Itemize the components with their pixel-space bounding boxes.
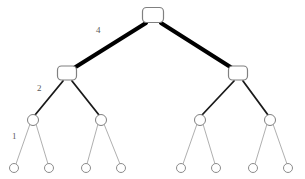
- tree-node: [96, 115, 107, 126]
- edge-weight-label: 1: [12, 132, 17, 141]
- tree-node: [58, 66, 77, 80]
- tree-edge: [255, 124, 267, 164]
- tree-edge: [36, 124, 48, 164]
- edge-weight-label: 4: [96, 26, 101, 35]
- tree-edge: [87, 124, 98, 164]
- tree-diagram-figure: 421: [0, 0, 305, 179]
- tree-node: [82, 164, 91, 173]
- edges-group: [16, 23, 287, 164]
- tree-edge: [16, 124, 30, 164]
- tree-edge: [161, 23, 232, 68]
- tree-edge: [243, 81, 268, 115]
- tree-graphics-canvas: [0, 0, 305, 179]
- tree-node: [229, 66, 248, 80]
- tree-node: [45, 164, 54, 173]
- tree-node: [177, 164, 186, 173]
- tree-node: [195, 115, 206, 126]
- tree-node: [117, 164, 126, 173]
- tree-edge: [183, 124, 197, 164]
- tree-edge: [273, 124, 287, 164]
- tree-edge: [104, 124, 120, 164]
- tree-edge: [203, 124, 215, 164]
- tree-node: [284, 164, 293, 173]
- tree-edge: [74, 23, 146, 68]
- edge-weight-label: 2: [37, 84, 42, 93]
- tree-node: [212, 164, 221, 173]
- tree-node: [265, 115, 276, 126]
- tree-node: [143, 8, 164, 23]
- tree-edge: [72, 81, 99, 115]
- tree-node: [249, 164, 258, 173]
- tree-node: [28, 115, 39, 126]
- tree-edge: [202, 81, 234, 115]
- tree-node: [10, 164, 19, 173]
